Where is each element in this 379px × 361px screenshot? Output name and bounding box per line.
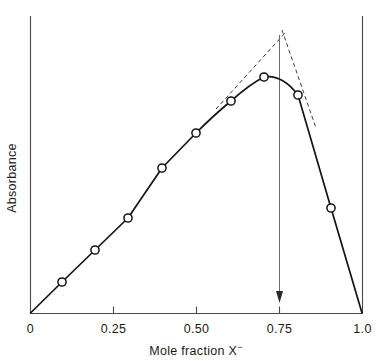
data-point-marker: [158, 164, 166, 172]
data-point-markers: [58, 73, 335, 286]
x-axis-title-superscript: −: [237, 342, 243, 352]
data-point-marker: [227, 97, 235, 105]
absorbance-curve: [31, 77, 363, 313]
x-tick-label-0.50: 0.50: [184, 322, 210, 336]
x-tick-label-0: 0: [27, 322, 34, 336]
chart-canvas: 0 0.25 0.50 0.75 1.0 Mole fraction X− Ab…: [0, 0, 379, 361]
x-tick-label-1.0: 1.0: [353, 322, 371, 336]
axes-group: [31, 16, 363, 314]
x-axis-title: Mole fraction X−: [149, 342, 242, 358]
left-extrapolation-line: [216, 33, 285, 109]
x-tick-marks: [114, 307, 280, 314]
right-extrapolation-line: [282, 30, 316, 128]
x-axis-title-group: Mole fraction X−: [149, 342, 242, 358]
x-tick-label-0.25: 0.25: [101, 322, 127, 336]
equivalence-drop-line-group: [276, 35, 283, 303]
jobs-plot-figure: 0 0.25 0.50 0.75 1.0 Mole fraction X− Ab…: [0, 0, 379, 361]
data-point-marker: [91, 246, 99, 254]
data-point-marker: [260, 73, 268, 81]
data-point-marker: [124, 214, 132, 222]
x-tick-label-0.75: 0.75: [267, 322, 293, 336]
data-point-marker: [294, 91, 302, 99]
drop-line-arrow-icon: [276, 291, 283, 303]
data-point-marker: [327, 204, 335, 212]
x-axis-title-main: Mole fraction X: [149, 344, 237, 358]
data-point-marker: [192, 129, 200, 137]
data-point-marker: [58, 278, 66, 286]
y-axis-title: Absorbance: [5, 143, 19, 213]
x-tick-labels: 0 0.25 0.50 0.75 1.0: [27, 322, 372, 336]
